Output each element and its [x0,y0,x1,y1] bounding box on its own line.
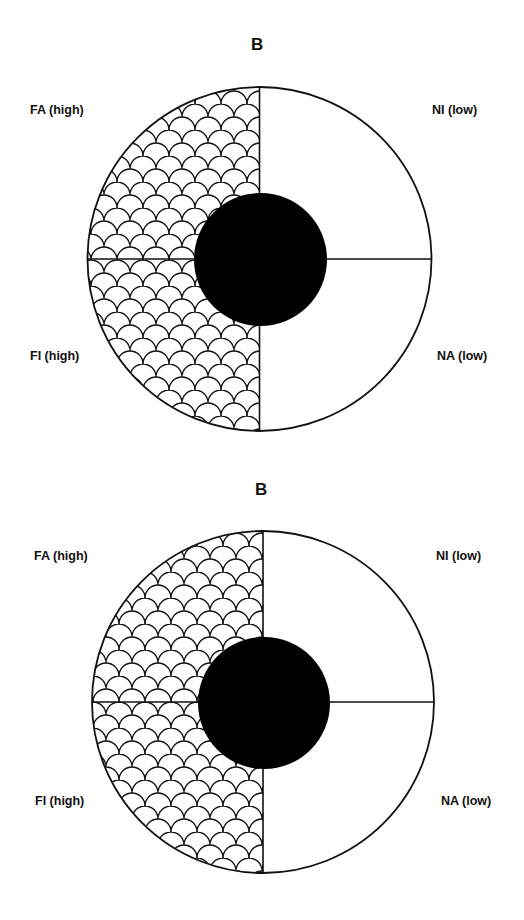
quadrant-circle-diagram [0,0,524,920]
center-disc [198,637,330,769]
diagram-panel-2: B FA (high) NI (low) FI (high) NA (low) [0,0,524,920]
